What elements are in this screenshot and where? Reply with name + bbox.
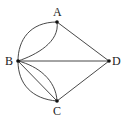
graph-diagram: A B C D <box>0 0 129 132</box>
edge-a-b-inner <box>18 22 57 61</box>
node-a <box>55 20 59 24</box>
node-d <box>107 59 111 63</box>
label-b: B <box>5 54 13 68</box>
edge-b-c-straight <box>18 61 57 101</box>
label-c: C <box>53 104 61 118</box>
edge-c-d <box>57 61 109 101</box>
node-b <box>16 59 20 63</box>
edge-a-d <box>57 22 109 61</box>
node-c <box>55 99 59 103</box>
label-a: A <box>53 5 62 19</box>
label-d: D <box>112 54 121 68</box>
